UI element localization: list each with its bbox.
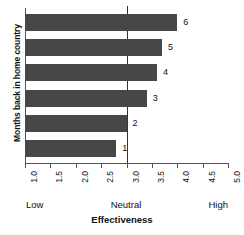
x-axis-tick	[177, 163, 178, 168]
scale-anchor-low: Low	[26, 199, 43, 210]
x-axis-tick-label: 3.5	[156, 171, 166, 183]
bar-value-label: 5	[168, 41, 173, 54]
x-axis-tick	[228, 163, 229, 168]
bar	[25, 39, 162, 56]
bar	[25, 115, 127, 132]
x-axis-tick-label: 1.0	[29, 171, 39, 183]
bar-value-label: 3	[153, 92, 158, 105]
x-axis-title: Effectiveness	[0, 214, 244, 225]
bar	[25, 90, 147, 107]
bar-chart: Months back in home country 6 5 4 3 2 1	[0, 0, 244, 235]
bar-row: 5	[25, 39, 228, 56]
bar-row: 3	[25, 90, 228, 107]
y-axis-title: Months back in home country	[12, 3, 22, 163]
plot-area: 6 5 4 3 2 1 1.01.52.02.53.03.54.04.55.0	[25, 8, 228, 163]
x-axis-tick	[76, 163, 77, 168]
bar-row: 1	[25, 140, 228, 157]
x-axis-tick-label: 2.0	[80, 171, 90, 183]
x-axis-tick	[152, 163, 153, 168]
x-axis-tick	[127, 163, 128, 168]
x-axis-tick-label: 1.5	[54, 171, 64, 183]
x-axis-tick	[50, 163, 51, 168]
scale-anchor-neutral: Neutral	[111, 199, 142, 210]
bar-value-label: 2	[133, 117, 138, 130]
x-axis-tick-label: 2.5	[105, 171, 115, 183]
scale-anchor-high: High	[208, 199, 228, 210]
x-axis-tick-label: 4.0	[181, 171, 191, 183]
bar	[25, 14, 177, 31]
x-axis-tick-label: 4.5	[207, 171, 217, 183]
bar	[25, 64, 157, 81]
x-axis-tick-label: 3.0	[131, 171, 141, 183]
bar-row: 2	[25, 115, 228, 132]
x-axis-tick	[101, 163, 102, 168]
x-axis-tick-label: 5.0	[232, 171, 242, 183]
x-axis-tick	[203, 163, 204, 168]
bar-value-label: 1	[122, 142, 127, 155]
bar-value-label: 4	[163, 66, 168, 79]
bar-row: 6	[25, 14, 228, 31]
bar-row: 4	[25, 64, 228, 81]
bar	[25, 140, 116, 157]
bar-value-label: 6	[183, 16, 188, 29]
x-axis-tick	[25, 163, 26, 168]
